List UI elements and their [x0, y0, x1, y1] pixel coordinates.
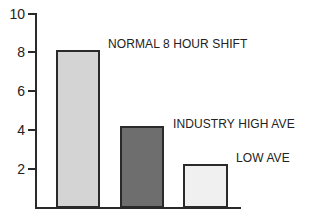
- y-axis: [35, 13, 37, 208]
- y-tick-label: 6: [3, 84, 25, 98]
- y-tick-label: 4: [3, 123, 25, 137]
- bar-label-normal: NORMAL 8 HOUR SHIFT: [108, 37, 247, 51]
- bar-label-low: LOW AVE: [236, 151, 290, 165]
- y-tick-10: [28, 13, 36, 15]
- bar-label-industry: INDUSTRY HIGH AVE: [173, 117, 295, 131]
- bar-chart: 10 8 6 4 2 NORMAL 8 HOUR SHIFT INDUSTRY …: [0, 0, 310, 217]
- y-tick-label: 2: [3, 162, 25, 176]
- y-tick-4: [28, 129, 36, 131]
- bar-low-ave: [183, 164, 228, 208]
- y-tick-8: [28, 51, 36, 53]
- bar-normal-8-hour-shift: [56, 50, 100, 208]
- y-tick-label: 10: [3, 7, 25, 21]
- y-tick-label: 8: [3, 45, 25, 59]
- bar-industry-high-ave: [120, 126, 164, 208]
- y-tick-2: [28, 168, 36, 170]
- y-tick-6: [28, 90, 36, 92]
